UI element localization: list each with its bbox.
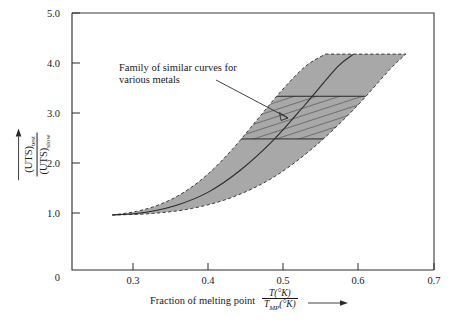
y-den: (UTS) (38, 148, 49, 175)
y-tick-4: 4.0 (47, 58, 60, 69)
family-annotation: Family of similar curves for various met… (119, 62, 259, 87)
x-axis-label: Fraction of melting point T(°K) TMP(°K) (150, 289, 430, 319)
x-tick-04: 0.4 (201, 275, 215, 286)
y-axis-fraction: (UTS)test (UTS)slow (23, 132, 53, 176)
y-axis-label: (UTS)test (UTS)slow (0, 104, 64, 190)
x-tick-06: 0.6 (351, 275, 364, 286)
x-den-tail: (°K) (279, 299, 295, 309)
y-num-sub: test (29, 136, 37, 146)
y-tick-5: 5.0 (47, 8, 60, 19)
x-axis-ticks (133, 263, 434, 270)
x-axis-tick-labels: 0.3 0.4 0.5 0.6 0.7 (126, 275, 440, 286)
y-num: (UTS) (23, 146, 34, 173)
x-axis-label-text: Fraction of melting point (150, 295, 255, 306)
chart-figure: 5.0 4.0 3.0 2.0 1.0 0 0.3 0.4 0.5 0.6 0.… (0, 0, 453, 322)
y-axis-ticks (72, 13, 80, 213)
x-tick-07: 0.7 (427, 275, 440, 286)
x-tick-03: 0.3 (126, 275, 139, 286)
chart-svg: 5.0 4.0 3.0 2.0 1.0 0 0.3 0.4 0.5 0.6 0.… (0, 0, 453, 322)
y-den-sub: slow (44, 134, 52, 147)
y-tick-0: 0 (55, 272, 60, 283)
x-tick-05: 0.5 (276, 275, 289, 286)
hatched-subregion (72, 96, 434, 139)
y-tick-1: 1.0 (47, 208, 60, 219)
x-num: T(°K) (262, 288, 298, 298)
x-den-sub: MP (269, 304, 279, 312)
x-axis-arrow (308, 299, 348, 307)
y-axis-arrow (14, 128, 22, 180)
x-axis-fraction: T(°K) TMP(°K) (262, 288, 298, 312)
